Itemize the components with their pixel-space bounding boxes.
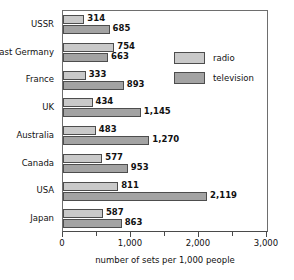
x-tick-major <box>266 232 267 237</box>
bar-radio <box>63 182 118 191</box>
bar-group: 4341,145 <box>63 94 267 122</box>
x-tick-minor <box>232 232 233 236</box>
bar-group: 314685 <box>63 11 267 39</box>
bar-value-label: 663 <box>111 52 129 61</box>
category-label-uk: UK <box>42 102 54 112</box>
category-label-east-germany: East Germany <box>0 47 54 57</box>
category-label-canada: Canada <box>22 158 54 168</box>
bar-television <box>63 219 122 228</box>
bar-group: 8112,119 <box>63 178 267 206</box>
bar-value-label: 754 <box>117 42 135 51</box>
bar-radio <box>63 43 114 52</box>
bar-value-label: 1,145 <box>144 107 171 116</box>
bar-group: 587863 <box>63 205 267 233</box>
bar-value-label: 953 <box>131 163 149 172</box>
bar-radio <box>63 15 84 24</box>
bar-value-label: 333 <box>89 70 107 79</box>
bar-television <box>63 25 110 34</box>
bar-radio <box>63 98 93 107</box>
x-tick-label: 0 <box>59 238 64 248</box>
bar-value-label: 2,119 <box>210 191 237 200</box>
x-axis-title-text: number of sets per 1,000 people <box>95 255 235 265</box>
x-tick-minor <box>96 232 97 236</box>
x-axis-tick-labels: 01,0002,0003,000 <box>0 238 294 252</box>
bar-radio <box>63 154 102 163</box>
x-tick-major <box>198 232 199 237</box>
category-label-france: France <box>26 74 54 84</box>
bar-value-label: 685 <box>113 24 131 33</box>
category-label-australia: Australia <box>16 130 54 140</box>
legend-label-radio: radio <box>213 53 235 64</box>
bar-group: 577953 <box>63 150 267 178</box>
bar-value-label: 314 <box>87 14 105 23</box>
bar-radio <box>63 209 103 218</box>
x-tick-label: 2,000 <box>186 238 210 248</box>
x-axis-title: number of sets per 1,000 people <box>0 255 294 265</box>
bar-value-label: 1,270 <box>152 135 179 144</box>
legend-swatch-television <box>174 72 205 84</box>
bar-value-label: 483 <box>99 125 117 134</box>
bar-value-label: 893 <box>127 80 145 89</box>
bar-radio <box>63 126 96 135</box>
bar-chart: USSREast GermanyFranceUKAustraliaCanadaU… <box>0 0 294 280</box>
bar-television <box>63 192 207 201</box>
bar-television <box>63 164 128 173</box>
legend-label-television: television <box>213 73 254 84</box>
bar-television <box>63 108 141 117</box>
y-axis-category-labels: USSREast GermanyFranceUKAustraliaCanadaU… <box>0 10 58 232</box>
bar-television <box>63 136 149 145</box>
bar-value-label: 811 <box>121 181 139 190</box>
bar-value-label: 863 <box>125 218 143 227</box>
category-label-usa: USA <box>36 185 54 195</box>
legend-swatch-radio <box>174 52 205 64</box>
bar-television <box>63 53 108 62</box>
bar-value-label: 587 <box>106 208 124 217</box>
category-label-ussr: USSR <box>31 19 54 29</box>
x-tick-major <box>130 232 131 237</box>
bar-value-label: 577 <box>105 153 123 162</box>
bar-value-label: 434 <box>96 97 114 106</box>
x-tick-minor <box>164 232 165 236</box>
x-tick-label: 1,000 <box>118 238 142 248</box>
bar-group: 4831,270 <box>63 122 267 150</box>
x-tick-label: 3,000 <box>254 238 278 248</box>
bar-group: 754663 <box>63 39 267 67</box>
category-label-japan: Japan <box>30 213 54 223</box>
bar-television <box>63 81 124 90</box>
bar-radio <box>63 71 86 80</box>
x-tick-major <box>62 232 63 237</box>
plot-area: 3146857546633338934341,1454831,270577953… <box>62 10 268 232</box>
